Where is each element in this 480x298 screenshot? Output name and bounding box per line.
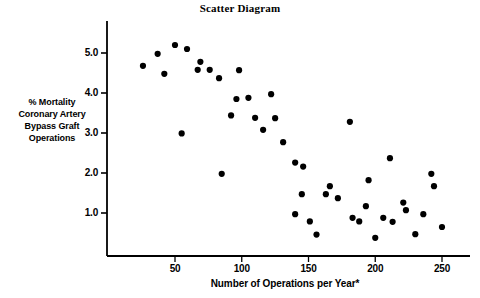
data-point — [300, 164, 306, 170]
data-point — [216, 75, 222, 81]
data-point — [390, 219, 396, 225]
data-point — [439, 224, 445, 230]
data-point — [313, 232, 319, 238]
data-point — [365, 177, 371, 183]
data-point — [400, 200, 406, 206]
data-point — [347, 119, 353, 125]
data-point — [356, 218, 362, 224]
y-axis-tick-label: 4.0 — [68, 87, 98, 98]
y-axis-tick-label: 2.0 — [68, 167, 98, 178]
data-point — [335, 195, 341, 201]
data-point — [252, 115, 258, 121]
data-point — [323, 191, 329, 197]
data-point — [179, 130, 185, 136]
data-point — [245, 95, 251, 101]
y-axis-tick-label: 1.0 — [68, 207, 98, 218]
data-point — [428, 171, 434, 177]
data-point — [161, 71, 167, 77]
data-point — [197, 59, 203, 65]
data-point — [233, 96, 239, 102]
data-point — [236, 67, 242, 73]
data-point — [260, 127, 266, 133]
x-axis-title: Number of Operations per Year* — [110, 278, 460, 289]
data-point — [272, 115, 278, 121]
data-point — [155, 51, 161, 57]
data-point — [292, 211, 298, 217]
data-point — [228, 112, 234, 118]
scatter-chart-figure: Scatter Diagram % Mortality Coronary Art… — [0, 0, 480, 298]
x-axis-tick-label: 100 — [222, 263, 262, 274]
x-axis-tick-label: 200 — [355, 263, 395, 274]
data-point — [420, 211, 426, 217]
data-point — [219, 171, 225, 177]
data-point — [207, 67, 213, 73]
data-point — [431, 183, 437, 189]
data-point — [380, 215, 386, 221]
y-axis-tick-label: 3.0 — [68, 127, 98, 138]
data-point — [307, 218, 313, 224]
data-point — [184, 46, 190, 52]
x-axis-tick-label: 50 — [155, 263, 195, 274]
data-point — [299, 191, 305, 197]
data-point — [387, 155, 393, 161]
data-point — [412, 231, 418, 237]
y-axis-tick-label: 5.0 — [68, 47, 98, 58]
data-point — [280, 139, 286, 145]
data-point — [140, 63, 146, 69]
x-axis-tick-label: 150 — [289, 263, 329, 274]
axis-lines — [107, 21, 470, 256]
data-point — [172, 42, 178, 48]
data-point — [372, 235, 378, 241]
plot-area — [0, 0, 480, 298]
data-point — [195, 67, 201, 73]
data-point — [363, 203, 369, 209]
data-point — [327, 183, 333, 189]
data-point — [403, 207, 409, 213]
data-point — [268, 91, 274, 97]
data-point — [292, 160, 298, 166]
x-axis-tick-label: 250 — [422, 263, 462, 274]
data-point — [349, 215, 355, 221]
data-point-series — [140, 42, 445, 241]
